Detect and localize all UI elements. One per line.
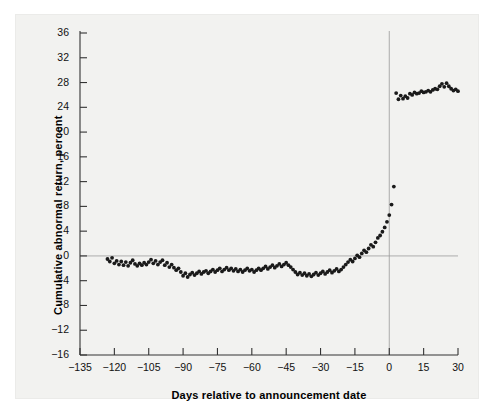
data-points <box>106 81 460 279</box>
y-tick-label: 4 <box>63 224 69 236</box>
x-axis-title: Days relative to announcement date <box>171 389 366 401</box>
x-tick-label: −135 <box>68 361 92 373</box>
y-axis-title: Cumulative abnormal return, percent <box>52 115 64 315</box>
x-tick-label: 30 <box>452 361 464 373</box>
y-tick-label: 24 <box>57 100 69 112</box>
axis-ticks <box>80 33 458 355</box>
y-tick-label: 32 <box>57 51 69 63</box>
figure-container: −16−12−8−404812162024283236 −135−120−105… <box>0 0 499 416</box>
x-tick-label: −105 <box>137 361 161 373</box>
scatter-plot-svg <box>16 15 478 398</box>
y-tick-label: 8 <box>63 199 69 211</box>
x-tick-label: −15 <box>346 361 364 373</box>
y-tick-label: −16 <box>51 348 69 360</box>
y-tick-label: 28 <box>57 76 69 88</box>
y-tick-label: −12 <box>51 323 69 335</box>
chart-panel: −16−12−8−404812162024283236 −135−120−105… <box>16 15 478 398</box>
x-tick-label: −30 <box>312 361 330 373</box>
x-tick-label: −75 <box>209 361 227 373</box>
x-tick-label: 0 <box>386 361 392 373</box>
x-tick-label: −45 <box>277 361 295 373</box>
x-tick-label: 15 <box>418 361 430 373</box>
axis-lines <box>80 31 458 355</box>
y-tick-label: 36 <box>57 26 69 38</box>
x-tick-label: −60 <box>243 361 261 373</box>
x-tick-label: −120 <box>103 361 127 373</box>
y-tick-label: 0 <box>63 249 69 261</box>
x-tick-label: −90 <box>174 361 192 373</box>
